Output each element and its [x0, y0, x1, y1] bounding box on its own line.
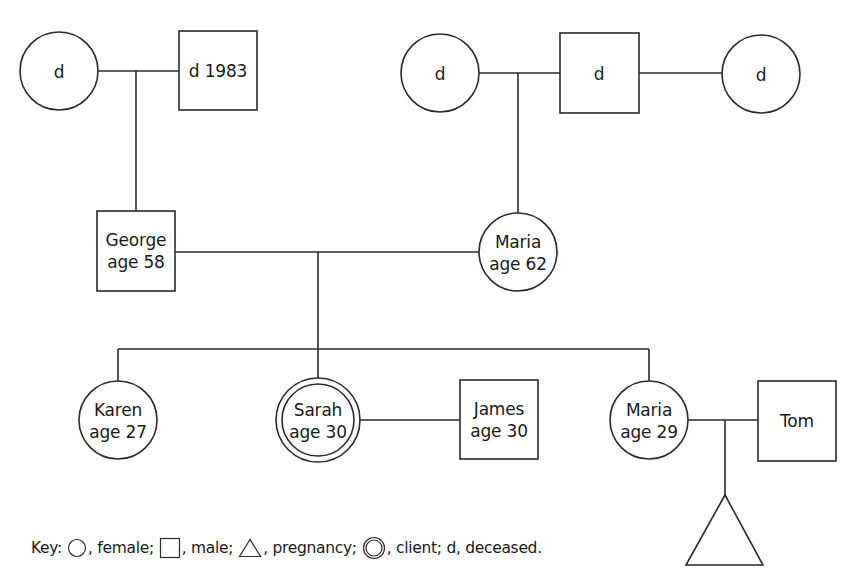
label-sarah: Sarah age 30 [289, 399, 347, 443]
label-george: George age 58 [106, 229, 167, 273]
label-line1: d [435, 63, 446, 85]
label-maria-mother: Maria age 62 [489, 231, 547, 275]
legend-pregnancy: , pregnancy; [263, 539, 357, 557]
legend-client-deceased: , client; d, deceased. [387, 539, 542, 557]
label-line1: d 1983 [189, 60, 247, 82]
label-age: age 29 [620, 421, 678, 443]
label-line1: d [54, 61, 65, 83]
label-name: Sarah [289, 399, 347, 421]
label-maternal-grandmother: d [435, 63, 446, 85]
pregnancy-key-icon [238, 538, 262, 558]
pregnancy-symbol [686, 495, 763, 565]
legend: Key: , female; , male; , pregnancy; , cl… [31, 536, 542, 560]
label-name: Maria [620, 399, 678, 421]
label-paternal-grandmother: d [54, 61, 65, 83]
label-age: age 27 [89, 421, 147, 443]
label-james: James age 30 [470, 398, 528, 442]
label-name: Maria [489, 231, 547, 253]
label-paternal-grandfather: d 1983 [189, 60, 247, 82]
label-line1: d [594, 63, 605, 85]
label-maria-sister: Maria age 29 [620, 399, 678, 443]
legend-prefix: Key: [31, 539, 62, 557]
legend-female: , female; [88, 539, 154, 557]
label-karen: Karen age 27 [89, 399, 147, 443]
label-age: age 30 [470, 420, 528, 442]
legend-male: , male; [182, 539, 233, 557]
label-age: age 58 [106, 251, 167, 273]
label-name: Tom [780, 410, 814, 432]
label-maternal-grandfather: d [594, 63, 605, 85]
label-name: Karen [89, 399, 147, 421]
label-age: age 62 [489, 253, 547, 275]
client-key-icon [362, 536, 386, 560]
label-name: James [470, 398, 528, 420]
genogram-canvas [0, 0, 857, 586]
male-key-icon [159, 537, 181, 559]
label-line1: d [756, 64, 767, 86]
label-grandfather-second-partner: d [756, 64, 767, 86]
label-age: age 30 [289, 421, 347, 443]
female-key-icon [67, 538, 87, 558]
label-tom: Tom [780, 410, 814, 432]
label-name: George [106, 229, 167, 251]
